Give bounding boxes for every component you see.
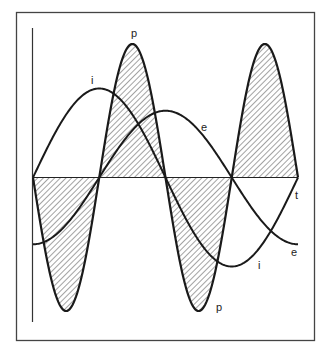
label-p-top: p: [131, 27, 137, 39]
label-e-top: e: [201, 121, 207, 133]
label-i-top: i: [91, 74, 93, 86]
label-p-bottom: p: [216, 301, 222, 313]
label-i-bottom: i: [258, 259, 260, 271]
label-t-axis: t: [295, 189, 298, 201]
label-e-bottom: e: [291, 246, 297, 258]
power-waveform-diagram: p i e t e i p: [0, 0, 329, 353]
